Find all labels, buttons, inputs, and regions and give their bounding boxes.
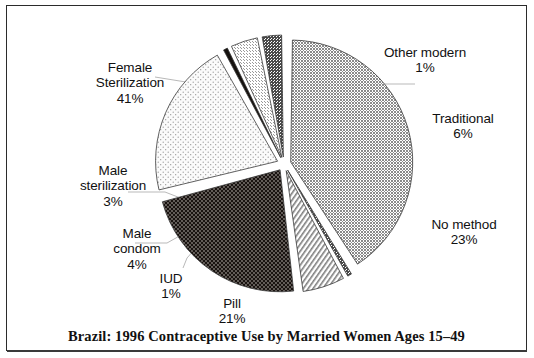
- label-pill-name: Pill: [223, 296, 241, 311]
- figure-border: Female Sterilization 41% Other modern 1%…: [6, 5, 527, 351]
- label-other-modern: Other modern 1%: [355, 29, 495, 91]
- label-iud-pct: 1%: [139, 286, 203, 302]
- caption-rule: [7, 350, 527, 352]
- label-traditional: Traditional 6%: [405, 95, 521, 157]
- label-traditional-pct: 6%: [405, 126, 521, 142]
- label-no-method: No method 23%: [405, 201, 523, 263]
- figure-caption: Brazil: 1996 Contraceptive Use by Marrie…: [7, 328, 526, 345]
- label-male-condom-name: Male condom: [113, 226, 160, 257]
- label-other-modern-pct: 1%: [355, 60, 495, 76]
- chart-figure: Female Sterilization 41% Other modern 1%…: [0, 0, 534, 358]
- label-traditional-name: Traditional: [432, 111, 493, 126]
- label-male-sterilization-pct: 3%: [55, 194, 171, 210]
- label-male-sterilization-name: Male sterilization: [80, 163, 146, 194]
- label-female-sterilization: Female Sterilization 41%: [67, 44, 193, 122]
- label-no-method-name: No method: [431, 217, 496, 232]
- label-male-sterilization: Male sterilization 3%: [55, 147, 171, 225]
- label-male-condom-pct: 4%: [93, 257, 181, 273]
- label-other-modern-name: Other modern: [384, 45, 466, 60]
- label-no-method-pct: 23%: [405, 232, 523, 248]
- label-female-sterilization-name: Female Sterilization: [96, 60, 164, 91]
- label-female-sterilization-pct: 41%: [67, 91, 193, 107]
- label-pill-pct: 21%: [192, 311, 272, 327]
